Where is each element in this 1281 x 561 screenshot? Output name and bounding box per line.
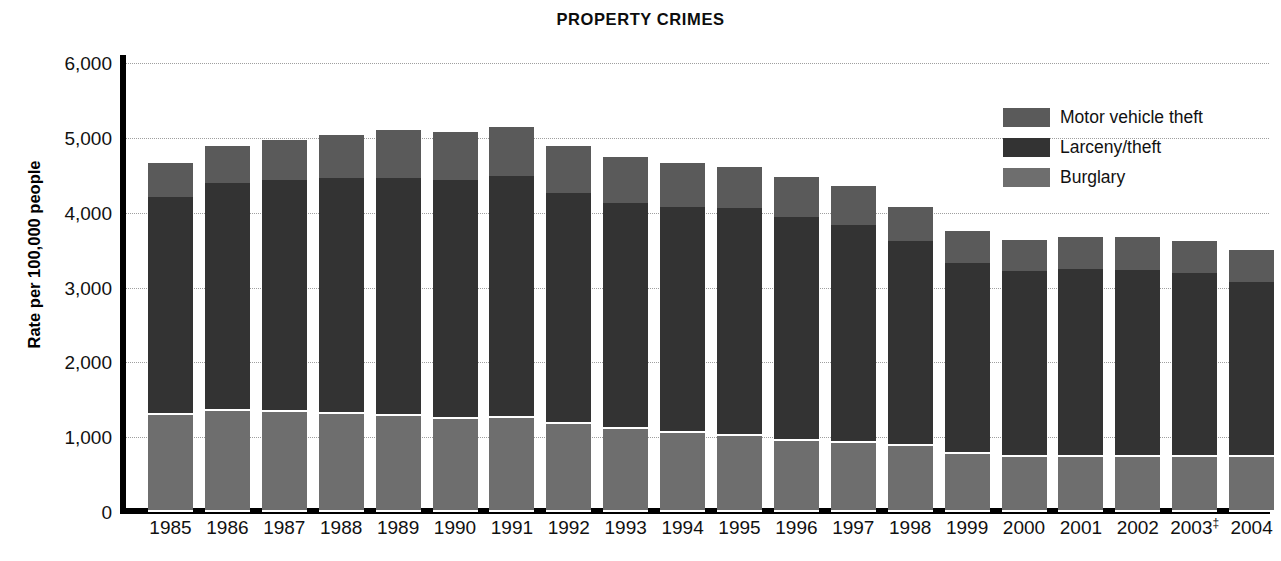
y-axis-tick-labels: 6,0005,0004,0003,0002,0001,0000 xyxy=(0,0,112,561)
bar-group xyxy=(262,57,307,512)
bar-segment xyxy=(489,418,534,512)
legend-item: Burglary xyxy=(1003,164,1273,191)
bar-segment xyxy=(319,178,364,414)
bar-segment xyxy=(831,443,876,512)
bar-segment xyxy=(376,178,421,416)
bar-group xyxy=(888,57,933,512)
bar-segment xyxy=(148,197,193,416)
bar-segment xyxy=(376,130,421,179)
bar-segment xyxy=(774,177,819,217)
bar-segment xyxy=(319,414,364,512)
legend-swatch xyxy=(1003,138,1050,157)
property-crimes-chart: PROPERTY CRIMES Rate per 100,000 people … xyxy=(0,0,1281,561)
legend-item: Larceny/theft xyxy=(1003,134,1273,161)
bar-segment xyxy=(1002,271,1047,457)
bar-segment xyxy=(262,412,307,512)
bar-group xyxy=(489,57,534,512)
bar-segment xyxy=(433,132,478,181)
y-tick-label: 3,000 xyxy=(4,279,112,298)
bar-segment xyxy=(205,183,250,410)
bar-segment xyxy=(262,140,307,180)
bar-segment xyxy=(717,167,762,208)
bar-segment xyxy=(1172,457,1217,512)
legend-label: Burglary xyxy=(1060,167,1125,188)
bar-group xyxy=(148,57,193,512)
bar-group xyxy=(319,57,364,512)
bar-segment xyxy=(262,180,307,412)
bar-segment xyxy=(1058,269,1103,457)
bar-segment xyxy=(945,263,990,455)
bar-group xyxy=(717,57,762,512)
bar-segment xyxy=(1058,457,1103,512)
legend-swatch xyxy=(1003,108,1050,127)
bar-group xyxy=(205,57,250,512)
bar-group xyxy=(945,57,990,512)
bar-segment xyxy=(603,203,648,429)
bar-segment xyxy=(1115,237,1160,269)
bar-segment xyxy=(945,454,990,512)
y-tick-label: 4,000 xyxy=(4,204,112,223)
bar-segment xyxy=(774,441,819,512)
bar-segment xyxy=(717,436,762,512)
bar-segment xyxy=(1172,273,1217,456)
legend-swatch xyxy=(1003,168,1050,187)
bar-group xyxy=(774,57,819,512)
bar-segment xyxy=(660,207,705,433)
bar-segment xyxy=(1002,457,1047,512)
bar-segment xyxy=(888,207,933,241)
bar-segment xyxy=(205,146,250,183)
bar-segment xyxy=(603,429,648,512)
bar-segment xyxy=(546,424,591,512)
bar-segment xyxy=(148,163,193,197)
bar-segment xyxy=(1229,250,1274,281)
bar-segment xyxy=(660,433,705,512)
bar-segment xyxy=(376,416,421,512)
y-tick-label: 6,000 xyxy=(4,54,112,73)
bar-segment xyxy=(1115,270,1160,457)
bar-segment xyxy=(1229,282,1274,458)
y-tick-label: 1,000 xyxy=(4,428,112,447)
bar-segment xyxy=(1229,457,1274,512)
bar-segment xyxy=(546,193,591,423)
y-tick-label: 5,000 xyxy=(4,129,112,148)
bar-segment xyxy=(489,127,534,176)
bar-segment xyxy=(888,241,933,446)
y-tick-label: 2,000 xyxy=(4,353,112,372)
bar-segment xyxy=(1002,240,1047,271)
bar-segment xyxy=(1058,237,1103,269)
bar-segment xyxy=(433,180,478,419)
bar-group xyxy=(831,57,876,512)
x-axis-tick-labels: 1985198619871988198919901991199219931994… xyxy=(126,518,1269,552)
bar-segment xyxy=(831,186,876,224)
x-tick-label: 2004 xyxy=(1212,518,1281,538)
bar-segment xyxy=(660,163,705,207)
bar-segment xyxy=(148,415,193,512)
bar-segment xyxy=(831,225,876,444)
bar-segment xyxy=(1115,457,1160,512)
bar-segment xyxy=(945,231,990,262)
legend-label: Larceny/theft xyxy=(1060,137,1161,158)
legend-label: Motor vehicle theft xyxy=(1060,107,1203,128)
bar-segment xyxy=(1172,241,1217,273)
bar-group xyxy=(546,57,591,512)
bar-segment xyxy=(717,208,762,436)
bar-group xyxy=(376,57,421,512)
bar-segment xyxy=(319,135,364,178)
bar-segment xyxy=(433,419,478,512)
chart-title: PROPERTY CRIMES xyxy=(0,10,1281,29)
bar-group xyxy=(660,57,705,512)
bar-segment xyxy=(774,217,819,441)
bar-segment xyxy=(489,176,534,418)
bar-segment xyxy=(888,446,933,512)
bar-segment xyxy=(603,157,648,203)
bar-group xyxy=(433,57,478,512)
bar-segment xyxy=(205,411,250,512)
chart-legend: Motor vehicle theftLarceny/theftBurglary xyxy=(1003,104,1273,194)
y-tick-label: 0 xyxy=(4,503,112,522)
bar-group xyxy=(603,57,648,512)
legend-item: Motor vehicle theft xyxy=(1003,104,1273,131)
bar-segment xyxy=(546,146,591,193)
